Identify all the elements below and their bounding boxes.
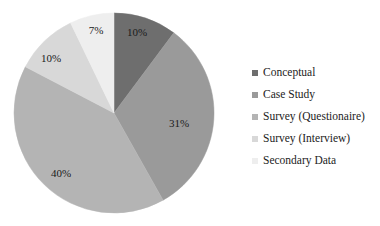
legend-item[interactable]: Conceptual <box>252 62 380 84</box>
pie-svg: 10%31%40%10%7% <box>0 0 240 226</box>
legend-swatch-icon <box>252 114 258 120</box>
pie-slice-label: 10% <box>41 52 61 64</box>
legend-swatch-icon <box>252 136 258 142</box>
chart-legend: ConceptualCase StudySurvey (Questionaire… <box>252 62 380 172</box>
legend-item-label: Survey (Interview) <box>263 133 350 145</box>
pie-slice-label: 10% <box>127 26 147 38</box>
legend-item-label: Conceptual <box>263 67 315 79</box>
legend-item-label: Case Study <box>263 89 315 101</box>
legend-item[interactable]: Case Study <box>252 84 380 106</box>
legend-item-label: Survey (Questionaire) <box>263 111 365 123</box>
pie-chart-figure: 10%31%40%10%7% ConceptualCase StudySurve… <box>0 0 380 226</box>
pie-slice-label: 7% <box>89 24 104 36</box>
legend-swatch-icon <box>252 70 258 76</box>
pie-slice-group <box>14 13 214 213</box>
legend-item[interactable]: Secondary Data <box>252 150 380 172</box>
pie-plot-area: 10%31%40%10%7% <box>0 0 240 226</box>
legend-item[interactable]: Survey (Questionaire) <box>252 106 380 128</box>
legend-swatch-icon <box>252 158 258 164</box>
pie-slice-label: 40% <box>51 167 71 179</box>
legend-item-label: Secondary Data <box>263 155 336 167</box>
pie-slice-label: 31% <box>169 117 189 129</box>
legend-swatch-icon <box>252 92 258 98</box>
legend-item[interactable]: Survey (Interview) <box>252 128 380 150</box>
